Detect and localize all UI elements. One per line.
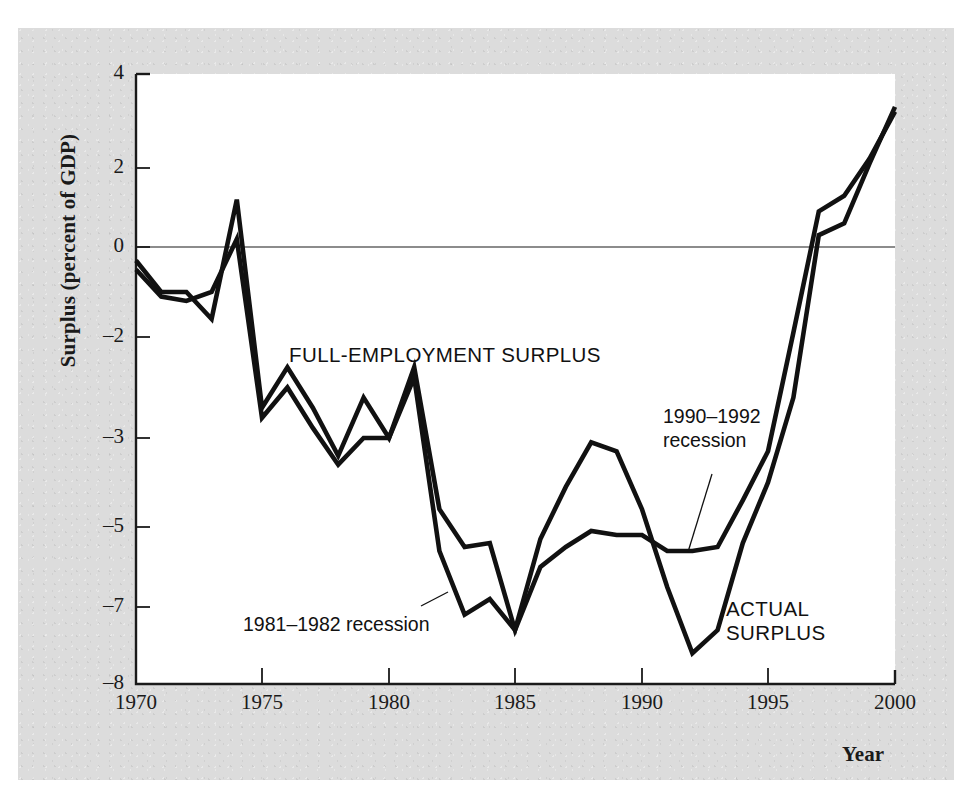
y-tick-label: –7 (84, 593, 124, 618)
x-tick-label: 1995 (723, 690, 813, 715)
x-tick-label: 1985 (470, 690, 560, 715)
x-tick-label: 1975 (217, 690, 307, 715)
x-tick-label: 1980 (344, 690, 434, 715)
y-tick-label: –3 (84, 424, 124, 449)
plot-canvas (0, 0, 971, 808)
y-tick-label: 4 (84, 60, 124, 85)
series-label-actual-surplus: ACTUAL SURPLUS (726, 597, 826, 645)
annotation-1981-line1: 1981–1982 recession (243, 613, 429, 637)
y-tick-label: 2 (84, 154, 124, 179)
chart-figure: Surplus (percent of GDP) Year 420–2–3–5–… (0, 0, 971, 808)
x-tick-label: 1990 (597, 690, 687, 715)
annotation-recession-1990-1992: 1990–1992 recession (663, 405, 761, 453)
series-label-full-employment-surplus: FULL-EMPLOYMENT SURPLUS (289, 343, 601, 367)
series-label-actual-line1: ACTUAL (726, 597, 826, 621)
series-label-actual-line2: SURPLUS (726, 621, 826, 645)
x-tick-label: 1970 (91, 690, 181, 715)
y-tick-label: –5 (84, 513, 124, 538)
y-tick-label: –2 (84, 323, 124, 348)
y-axis-title: Surplus (percent of GDP) (56, 121, 81, 381)
x-tick-label: 2000 (850, 690, 940, 715)
annotation-recession-1981-1982: 1981–1982 recession (243, 613, 429, 637)
annotation-1990-line2: recession (663, 429, 761, 453)
annotation-1990-line1: 1990–1992 (663, 405, 761, 429)
y-tick-label: 0 (84, 233, 124, 258)
x-axis-title: Year (842, 742, 884, 767)
